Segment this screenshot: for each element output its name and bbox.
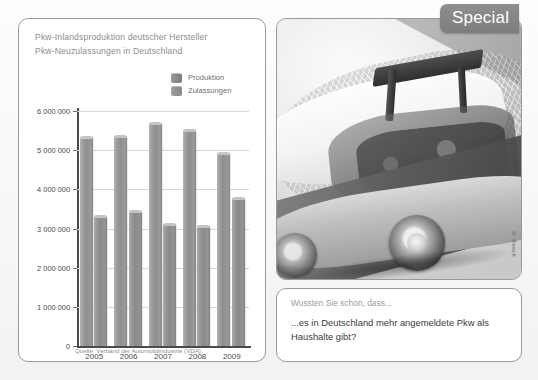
y-axis-tick-label: 6 000 000 xyxy=(37,107,70,116)
bar-zulassungen-2008 xyxy=(197,225,210,346)
y-axis-tick-label: 4 000 000 xyxy=(37,185,70,194)
y-axis-line xyxy=(77,108,79,346)
bar-produktion-2008 xyxy=(183,129,196,346)
bar-zulassungen-2007 xyxy=(163,223,176,346)
did-you-know-kicker: Wussten Sie schon, dass... xyxy=(291,298,507,308)
y-axis-tick xyxy=(73,111,77,112)
chart-source-note: Quelle: Verband der Automobilindustrie (… xyxy=(19,347,257,354)
y-axis-tick xyxy=(73,189,77,190)
y-axis-tick xyxy=(73,268,77,269)
bar-zulassungen-2006 xyxy=(129,210,142,346)
legend-item-produktion: Produktion xyxy=(171,71,231,84)
chart-title-line-1: Pkw-Inlandsproduktion deutscher Herstell… xyxy=(35,32,208,42)
y-axis-tick-label: 2 000 000 xyxy=(37,263,70,272)
y-axis-tick xyxy=(73,229,77,230)
bar-produktion-2009 xyxy=(217,152,230,346)
chart-plot-area: 01 000 0002 000 0003 000 0004 000 0005 0… xyxy=(77,111,249,346)
chart-title: Pkw-Inlandsproduktion deutscher Herstell… xyxy=(35,30,208,58)
y-axis-tick-label: 1 000 000 xyxy=(37,302,70,311)
did-you-know-text: ...es in Deutschland mehr angemeldete Pk… xyxy=(291,316,507,344)
y-axis-tick xyxy=(73,307,77,308)
page-root: Pkw-Inlandsproduktion deutscher Herstell… xyxy=(0,0,538,380)
photo-panel: © Bosch xyxy=(276,18,522,280)
y-axis-tick-label: 3 000 000 xyxy=(37,224,70,233)
special-badge: Special xyxy=(440,4,519,33)
legend-swatch-produktion xyxy=(171,73,182,83)
legend-label-zulassungen: Zulassungen xyxy=(188,86,231,95)
chart-title-line-2: Pkw-Neuzulassungen in Deutschland xyxy=(35,44,208,58)
car-wheel-hub xyxy=(407,233,427,253)
bar-zulassungen-2009 xyxy=(232,197,245,346)
photo-credit: © Bosch xyxy=(511,231,517,257)
legend-swatch-zulassungen xyxy=(171,86,182,96)
bar-zulassungen-2005 xyxy=(94,215,107,346)
did-you-know-panel: Wussten Sie schon, dass... ...es in Deut… xyxy=(276,288,522,362)
chart-legend: Produktion Zulassungen xyxy=(171,71,231,97)
bar-produktion-2006 xyxy=(114,135,127,347)
y-axis-tick-label: 5 000 000 xyxy=(37,146,70,155)
car-cutaway-photo xyxy=(277,19,521,279)
legend-label-produktion: Produktion xyxy=(188,73,224,82)
chart-panel: Pkw-Inlandsproduktion deutscher Herstell… xyxy=(18,18,266,362)
gridline xyxy=(77,111,249,112)
bar-produktion-2007 xyxy=(149,122,162,346)
y-axis-tick xyxy=(73,150,77,151)
bar-produktion-2005 xyxy=(80,136,93,346)
legend-item-zulassungen: Zulassungen xyxy=(171,84,231,97)
